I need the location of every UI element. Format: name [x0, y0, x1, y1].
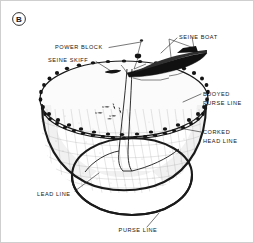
panel-letter-b: B: [13, 13, 26, 26]
label-corked-head-line-line2: HEAD LINE: [203, 138, 237, 144]
leader-power-block: [109, 42, 141, 48]
label-buoyed-purse-line-line2: PURSE LINE: [203, 100, 242, 106]
panel-letter-text: B: [16, 15, 22, 24]
net-webbing-bottom: [97, 171, 152, 177]
figure-panel: B POWER BLOCK SEINE SKIFF SEINE BOAT BUO…: [0, 0, 254, 243]
leader-purse-line: [147, 213, 159, 227]
label-lead-line: LEAD LINE: [37, 191, 71, 197]
label-power-block: POWER BLOCK: [55, 44, 103, 50]
label-purse-line: PURSE LINE: [119, 227, 158, 233]
label-seine-skiff: SEINE SKIFF: [48, 57, 88, 63]
purse-seine-diagram: B POWER BLOCK SEINE SKIFF SEINE BOAT BUO…: [1, 1, 254, 243]
label-seine-boat: SEINE BOAT: [179, 34, 218, 40]
label-corked-head-line-line1: CORKED: [203, 129, 230, 135]
label-buoyed-purse-line-line1: BUOYED: [203, 91, 230, 97]
